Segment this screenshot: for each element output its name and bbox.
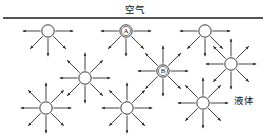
force-arrow — [90, 60, 103, 73]
force-arrow — [213, 46, 226, 59]
force-arrow — [109, 113, 122, 126]
force-arrow — [67, 60, 80, 73]
molecule — [23, 25, 73, 56]
liquid-surface-tension-diagram: AB 空气 液体 — [0, 0, 270, 139]
molecule: A — [101, 25, 151, 56]
force-arrow — [185, 85, 198, 98]
force-arrow — [131, 36, 144, 49]
force-arrow — [132, 113, 145, 126]
force-arrow — [168, 53, 181, 66]
molecule — [180, 25, 230, 56]
force-arrow — [132, 90, 145, 103]
force-arrow — [168, 76, 181, 89]
molecule-letter-a: A — [123, 27, 128, 35]
force-arrow — [185, 108, 198, 121]
molecule-group: AB — [21, 25, 256, 133]
force-arrow — [210, 36, 223, 49]
molecule-circle — [197, 97, 209, 109]
molecule — [21, 83, 71, 133]
air-label: 空气 — [125, 4, 146, 15]
force-arrow — [51, 113, 64, 126]
force-arrow — [187, 36, 200, 49]
molecule-circle — [121, 102, 133, 114]
force-arrow — [108, 36, 121, 49]
molecule: B — [138, 46, 188, 96]
force-arrow — [236, 69, 249, 82]
force-arrow — [213, 69, 226, 82]
molecule-circle — [42, 25, 54, 37]
force-arrow — [28, 113, 41, 126]
molecule — [206, 39, 256, 89]
force-arrow — [90, 83, 103, 96]
molecule-circle — [40, 102, 52, 114]
molecule-letter-b: B — [161, 67, 166, 75]
force-arrow — [51, 90, 64, 103]
force-arrow — [53, 36, 66, 49]
force-arrow — [236, 46, 249, 59]
liquid-label: 液体 — [234, 95, 255, 106]
molecule — [102, 83, 152, 133]
molecule-circle — [225, 58, 237, 70]
molecule-circle — [79, 72, 91, 84]
force-arrow — [67, 83, 80, 96]
force-arrow — [30, 36, 43, 49]
force-arrow — [208, 108, 221, 121]
force-arrow — [145, 53, 158, 66]
molecule-circle — [199, 25, 211, 37]
molecule — [178, 78, 228, 128]
force-arrow — [28, 90, 41, 103]
force-arrow — [145, 76, 158, 89]
molecule — [60, 53, 110, 103]
force-arrow — [109, 90, 122, 103]
diagram-canvas: AB 空气 液体 — [0, 0, 270, 139]
force-arrow — [208, 85, 221, 98]
